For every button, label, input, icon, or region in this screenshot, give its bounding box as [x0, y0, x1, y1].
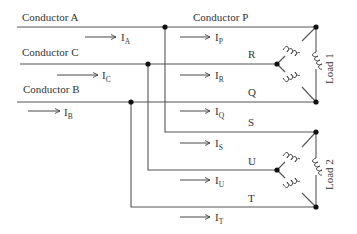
svg-text:IU: IU: [215, 174, 225, 189]
conductor-b: Conductor B IB: [17, 83, 316, 121]
line-s-label: S: [248, 116, 254, 128]
neutral-node: [274, 61, 279, 66]
junction-node: [162, 24, 167, 29]
load1-label: Load 1: [323, 53, 335, 84]
svg-text:IC: IC: [102, 69, 111, 84]
load2-inductor-network: [274, 129, 322, 209]
line-r-label: R: [248, 48, 256, 60]
line-u-label: U: [248, 155, 256, 167]
three-phase-wiring-diagram: Conductor A IA Conductor C IC Conductor …: [0, 0, 357, 234]
line-t-label: T: [248, 192, 255, 204]
svg-text:IB: IB: [64, 106, 73, 121]
svg-text:IQ: IQ: [215, 105, 225, 120]
load2-label: Load 2: [323, 159, 335, 190]
load1-inductor-network: [274, 24, 322, 104]
svg-text:IR: IR: [215, 69, 224, 84]
neutral-node: [274, 167, 279, 172]
terminal-node: [313, 129, 318, 134]
tap-c-to-u: [148, 64, 277, 170]
terminal-node: [313, 99, 318, 104]
conductor-b-label: Conductor B: [23, 83, 80, 95]
conductor-a-label: Conductor A: [22, 11, 79, 23]
conductor-c-label: Conductor C: [22, 46, 79, 58]
terminal-node: [313, 24, 318, 29]
junction-node: [145, 61, 150, 66]
junction-node: [128, 99, 133, 104]
tap-a-to-s: [165, 27, 316, 132]
svg-text:IT: IT: [215, 211, 224, 226]
svg-text:IP: IP: [215, 31, 223, 46]
terminal-node: [313, 204, 318, 209]
svg-text:IA: IA: [121, 31, 131, 46]
svg-text:IS: IS: [215, 137, 223, 152]
line-q-label: Q: [248, 86, 256, 98]
line-p-label: Conductor P: [193, 11, 248, 23]
